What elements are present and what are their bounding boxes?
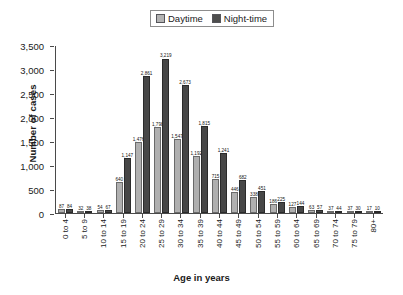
bar-nighttime: 2,861: [143, 76, 150, 213]
bar-nighttime: 30: [355, 211, 362, 213]
bar-daytime: 1,476: [135, 142, 142, 213]
bar-nighttime: 44: [335, 211, 342, 213]
bar-daytime: 1,547: [174, 139, 181, 213]
bar-group: 5467: [94, 46, 113, 213]
bar-value-label: 446: [231, 188, 239, 193]
bar-group: 446682: [229, 46, 248, 213]
x-axis-tick-label: 70 to 74: [330, 219, 339, 248]
y-axis-tick-label: 1,500: [20, 137, 44, 148]
x-axis-label-cell: 5 to 9: [74, 219, 93, 267]
x-axis-tick-label: 30 to 34: [176, 219, 185, 248]
bar-daytime: 1,192: [193, 156, 200, 213]
bar-value-label: 30: [356, 207, 361, 212]
bar-group: 3730: [345, 46, 364, 213]
bar-value-label: 32: [78, 207, 83, 212]
legend-swatch-nighttime-icon: [212, 14, 221, 23]
y-axis-tick-mark: [50, 94, 54, 95]
bar-nighttime: 144: [297, 206, 304, 213]
bar-daytime: 37: [327, 211, 334, 213]
legend-item-daytime: Daytime: [156, 13, 203, 24]
x-axis-tick-label: 45 to 49: [234, 219, 243, 248]
bar-nighttime: 67: [105, 210, 112, 213]
bar-value-label: 44: [336, 207, 341, 212]
x-axis-label-cell: 30 to 34: [171, 219, 190, 267]
bar-group: 6401,147: [114, 46, 133, 213]
x-axis-label-cell: 65 to 69: [306, 219, 325, 267]
bar-nighttime: 1,815: [201, 126, 208, 213]
bar-group: 1,1921,815: [191, 46, 210, 213]
bar-nighttime: 57: [316, 210, 323, 213]
bar-value-label: 3,219: [160, 54, 172, 59]
bar-nighttime: 1,241: [220, 153, 227, 213]
chart-legend: Daytime Night-time: [150, 10, 274, 27]
bar-nighttime: 682: [239, 180, 246, 213]
x-axis-label-cell: 50 to 54: [248, 219, 267, 267]
bar-value-label: 1,815: [199, 122, 211, 127]
bar-daytime: 32: [77, 211, 84, 213]
x-axis-label-cell: 10 to 14: [94, 219, 113, 267]
y-axis-tick-label: 2,000: [20, 113, 44, 124]
y-axis-tick-label: 1,000: [20, 161, 44, 172]
x-axis-tick-label: 15 to 19: [118, 219, 127, 248]
bar-group: 3238: [75, 46, 94, 213]
x-axis-tick-label: 5 to 9: [79, 219, 88, 239]
x-axis-label-cell: 60 to 64: [287, 219, 306, 267]
bar-value-label: 640: [115, 178, 123, 183]
y-axis-labels: 05001,0001,5002,0002,5003,0003,500: [0, 46, 50, 214]
x-axis-label-cell: 70 to 74: [325, 219, 344, 267]
bar-group: 1710: [364, 46, 383, 213]
legend-label-daytime: Daytime: [168, 13, 203, 24]
x-axis-tick-label: 10 to 14: [99, 219, 108, 248]
y-axis-tick-label: 0: [39, 209, 44, 220]
bar-value-label: 63: [309, 206, 314, 211]
bar-daytime: 63: [308, 210, 315, 213]
bar-daytime: 640: [116, 182, 123, 213]
bar-value-label: 2,861: [141, 72, 153, 77]
bar-daytime: 1,798: [154, 127, 161, 213]
bar-daytime: 127: [289, 207, 296, 213]
x-axis-title: Age in years: [0, 272, 403, 283]
x-axis-tick-label: 20 to 24: [137, 219, 146, 248]
x-axis-tick-label: 40 to 44: [215, 219, 224, 248]
y-axis-tick-mark: [50, 166, 54, 167]
x-axis-label-cell: 0 to 4: [55, 219, 74, 267]
bar-value-label: 37: [348, 207, 353, 212]
x-axis-tick-label: 0 to 4: [60, 219, 69, 239]
bar-value-label: 38: [86, 207, 91, 212]
bar-value-label: 186: [269, 200, 277, 205]
bar-value-label: 54: [98, 206, 103, 211]
x-axis-tick-label: 75 to 79: [350, 219, 359, 248]
y-axis-tick-label: 3,000: [20, 65, 44, 76]
bar-group: 7151,241: [210, 46, 229, 213]
bar-nighttime: 3,219: [162, 59, 169, 214]
y-axis-tick-mark: [50, 70, 54, 71]
bar-value-label: 1,147: [122, 154, 134, 159]
bar-group: 1,7983,219: [152, 46, 171, 213]
bar-group: 1,5472,673: [171, 46, 190, 213]
bar-daytime: 87: [58, 209, 65, 213]
x-axis-label-cell: 25 to 29: [151, 219, 170, 267]
bar-daytime: 715: [212, 179, 219, 213]
bar-group: 127144: [287, 46, 306, 213]
x-axis-tick-label: 55 to 59: [272, 219, 281, 248]
bar-daytime: 186: [270, 204, 277, 213]
bar-daytime: 338: [250, 197, 257, 213]
bar-daytime: 17: [366, 211, 373, 213]
bar-daytime: 446: [231, 192, 238, 213]
bar-chart: Daytime Night-time Number of cases 05001…: [0, 0, 403, 295]
bar-group: 1,4762,861: [133, 46, 152, 213]
bar-value-label: 17: [367, 207, 372, 212]
bar-nighttime: 84: [66, 209, 73, 213]
bar-nighttime: 451: [258, 191, 265, 213]
bar-value-label: 2,673: [179, 81, 191, 86]
bar-group: 3744: [325, 46, 344, 213]
bar-value-label: 225: [277, 198, 285, 203]
bar-value-label: 10: [375, 207, 380, 212]
y-axis-tick-label: 2,500: [20, 89, 44, 100]
x-axis-tick-label: 60 to 64: [292, 219, 301, 248]
bar-group: 186225: [268, 46, 287, 213]
bar-nighttime: 225: [278, 202, 285, 213]
bar-nighttime: 10: [374, 211, 381, 213]
x-axis-label-cell: 20 to 24: [132, 219, 151, 267]
y-axis-tick-label: 500: [28, 185, 44, 196]
